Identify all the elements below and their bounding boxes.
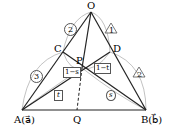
ratio-DB: 2 [134, 68, 145, 79]
ratio-PD: 1−t [94, 63, 111, 74]
point-O-label: O [87, 0, 95, 11]
ratio-CP: 1−s [63, 67, 81, 78]
point-B-label: B(b⃗) [141, 114, 162, 125]
point-P-label: P [76, 55, 83, 66]
point-C-label: C [54, 43, 62, 54]
point-Q-label: Q [73, 114, 81, 125]
ratio-CA: 3 [30, 70, 43, 83]
ratio-OC: 2 [64, 23, 77, 36]
ratio-PB: s [106, 90, 116, 101]
ratio-AP: t [54, 90, 63, 101]
point-D-label: D [113, 43, 121, 54]
segments [22, 12, 146, 110]
ratio-OD: 1 [106, 24, 117, 35]
arcs [22, 12, 146, 110]
point-A-label: A(a⃗) [14, 114, 35, 125]
